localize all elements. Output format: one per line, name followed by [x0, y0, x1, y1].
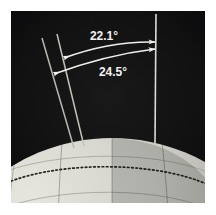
angle-label-upper: 22.1°: [90, 29, 118, 43]
orbital-normal-line: [155, 14, 156, 143]
figure-root: 22.1° 24.5°: [0, 0, 216, 215]
planet-tilt-diagram: 22.1° 24.5°: [0, 0, 216, 215]
angle-label-lower: 24.5°: [99, 65, 127, 79]
